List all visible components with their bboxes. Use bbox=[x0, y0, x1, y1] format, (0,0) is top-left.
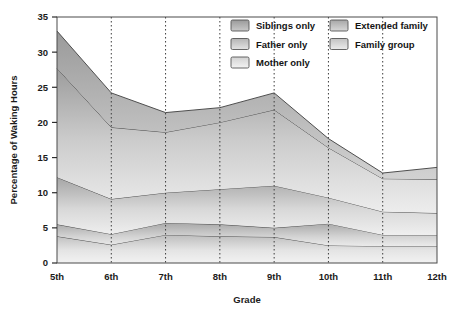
top-left-artifact bbox=[0, 0, 9, 8]
x-axis: 5th6th7th8th9th10th11th12th bbox=[50, 271, 447, 282]
x-tick-label-6th: 6th bbox=[104, 271, 118, 282]
y-tick-label: 15 bbox=[37, 152, 48, 163]
y-tick-label: 20 bbox=[37, 117, 48, 128]
y-tick-label: 5 bbox=[43, 222, 49, 233]
stacked-area-chart: 05101520253035 5th6th7th8th9th10th11th12… bbox=[0, 0, 457, 312]
chart-figure: 05101520253035 5th6th7th8th9th10th11th12… bbox=[0, 0, 457, 312]
x-tick-label-9th: 9th bbox=[267, 271, 281, 282]
y-tick-label: 0 bbox=[43, 257, 48, 268]
legend-label-siblings-only: Siblings only bbox=[256, 20, 316, 31]
legend-label-father-only: Father only bbox=[256, 39, 308, 50]
legend-label-family-group: Family group bbox=[355, 39, 415, 50]
y-axis: 05101520253035 bbox=[37, 11, 57, 268]
legend-swatch-siblings-only bbox=[231, 20, 249, 31]
x-tick-label-7th: 7th bbox=[158, 271, 172, 282]
legend-swatch-extended-family bbox=[330, 20, 348, 31]
legend-swatch-family-group bbox=[330, 39, 348, 50]
y-tick-label: 35 bbox=[37, 11, 48, 22]
x-tick-label-12th: 12th bbox=[427, 271, 447, 282]
x-tick-label-8th: 8th bbox=[213, 271, 227, 282]
x-tick-label-11th: 11th bbox=[373, 271, 392, 282]
legend-label-mother-only: Mother only bbox=[256, 57, 311, 68]
y-tick-label: 10 bbox=[37, 187, 48, 198]
legend-label-extended-family: Extended family bbox=[355, 20, 429, 31]
x-tick-label-10th: 10th bbox=[319, 271, 339, 282]
y-tick-label: 25 bbox=[37, 82, 48, 93]
legend-swatch-father-only bbox=[231, 39, 249, 50]
x-tick-label-5th: 5th bbox=[50, 271, 64, 282]
y-axis-title: Percentage of Waking Hours bbox=[8, 76, 19, 205]
y-tick-label: 30 bbox=[37, 47, 48, 58]
x-axis-title: Grade bbox=[233, 294, 260, 305]
legend-swatch-mother-only bbox=[231, 57, 249, 68]
